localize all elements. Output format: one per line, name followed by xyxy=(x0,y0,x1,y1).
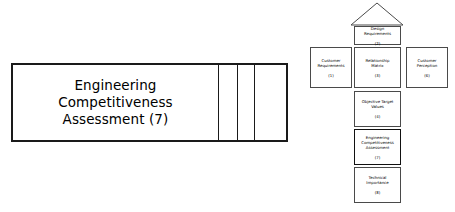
box-technical-importance-title: TechnicalImportance xyxy=(366,175,388,185)
box-objective-target-values: Objective TargetValues (4) xyxy=(354,91,401,127)
box-objective-target-values-number: (4) xyxy=(375,114,381,119)
box-design-requirements-title: DesignRequirements xyxy=(364,26,391,36)
box-customer-perception-number: (6) xyxy=(424,73,430,78)
box-customer-perception-title: CustomerPerception xyxy=(417,58,438,68)
callout-label: Engineering Competitiveness Assessment (… xyxy=(13,65,218,140)
box-engineering-competitiveness-assessment-number: (7) xyxy=(375,155,381,160)
box-engineering-competitiveness-assessment: EngineeringCompetitivenessAssessment (7) xyxy=(354,129,401,165)
box-relationship-matrix-title: RelationshipMatrix xyxy=(366,58,390,68)
correlation-roof-triangle xyxy=(350,2,404,26)
box-customer-requirements: CustomerRequirements (1) xyxy=(310,47,352,88)
box-objective-target-values-title: Objective TargetValues xyxy=(362,99,394,109)
box-design-requirements: DesignRequirements (2) xyxy=(354,26,401,45)
callout-divider-2 xyxy=(237,65,238,140)
box-technical-importance-number: (8) xyxy=(375,190,381,195)
box-customer-requirements-number: (1) xyxy=(328,73,334,78)
callout-divider-1 xyxy=(218,65,219,140)
box-customer-perception: CustomerPerception (6) xyxy=(406,47,448,88)
box-relationship-matrix: RelationshipMatrix (3) xyxy=(354,47,401,88)
callout-divider-3 xyxy=(254,65,255,140)
box-engineering-competitiveness-assessment-title: EngineeringCompetitivenessAssessment xyxy=(361,135,394,150)
box-design-requirements-number: (2) xyxy=(375,41,381,46)
box-relationship-matrix-number: (3) xyxy=(375,73,381,78)
engineering-competitiveness-callout-panel: Engineering Competitiveness Assessment (… xyxy=(11,63,288,142)
box-technical-importance: TechnicalImportance (8) xyxy=(354,167,401,203)
box-customer-requirements-title: CustomerRequirements xyxy=(317,58,344,68)
house-of-quality-diagram: DesignRequirements (2) CustomerRequireme… xyxy=(306,0,455,212)
